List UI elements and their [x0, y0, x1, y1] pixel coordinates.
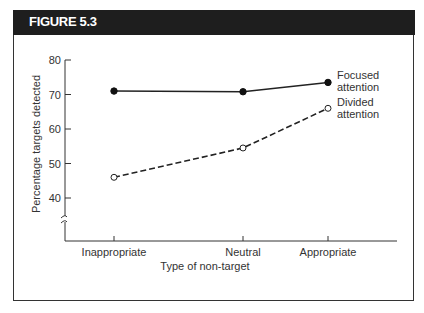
x-axis-label: Type of non-target — [160, 260, 249, 272]
data-point-focused-attention — [240, 89, 246, 95]
y-tick-label: 60 — [49, 123, 61, 135]
data-point-divided-attention — [240, 145, 246, 151]
data-point-focused-attention — [325, 79, 331, 85]
line-chart: 4050607080InappropriateNeutralAppropriat… — [0, 0, 424, 313]
series-label-divided-attention: attention — [337, 108, 379, 120]
axis-break-mark — [61, 216, 67, 218]
series-line-focused-attention — [114, 82, 328, 91]
axis-break-mark — [61, 221, 67, 223]
y-tick-label: 40 — [49, 192, 61, 204]
y-axis-label: Percentage targets detected — [30, 75, 42, 213]
y-tick-label: 50 — [49, 158, 61, 170]
series-label-divided-attention: Divided — [337, 96, 374, 108]
x-tick-label: Neutral — [225, 246, 260, 258]
data-point-focused-attention — [111, 88, 117, 94]
series-label-focused-attention: Focused — [337, 69, 379, 81]
x-tick-label: Appropriate — [300, 246, 357, 258]
y-tick-label: 70 — [49, 89, 61, 101]
data-point-divided-attention — [325, 105, 331, 111]
y-tick-label: 80 — [49, 54, 61, 66]
x-tick-label: Inappropriate — [82, 246, 147, 258]
series-line-divided-attention — [114, 108, 328, 177]
data-point-divided-attention — [111, 174, 117, 180]
series-label-focused-attention: attention — [337, 81, 379, 93]
